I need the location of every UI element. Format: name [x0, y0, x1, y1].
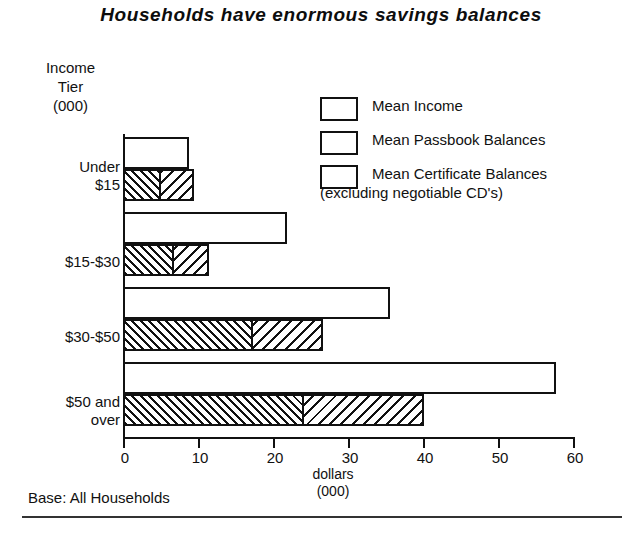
bar-stack-balances-30-50 [123, 319, 323, 351]
legend-item-mean-passbook-balances: Mean Passbook Balances [320, 130, 547, 156]
x-tick-mark [123, 439, 125, 448]
bar-segment-certificate-under-15 [159, 169, 194, 201]
category-label-15-30: $15-$30 [8, 253, 120, 271]
x-tick-mark [198, 439, 200, 448]
bar-mean-income-15-30 [123, 212, 287, 244]
backward-hatch-swatch-icon [320, 165, 358, 189]
legend-item-mean-certificate-balances: Mean Certificate Balances (excluding neg… [320, 164, 547, 202]
x-tick-mark [348, 439, 350, 448]
bar-segment-passbook-30-50 [123, 319, 253, 351]
bar-stack-balances-under-15 [123, 169, 194, 201]
base-note: Base: All Households [28, 489, 170, 506]
bar-stack-balances-50-and-over [123, 394, 424, 426]
x-tick-mark [273, 439, 275, 448]
forward-hatch-swatch-icon [320, 131, 358, 155]
category-label-under-15: Under $15 [8, 158, 120, 194]
x-axis-title: dollars (000) [253, 466, 413, 500]
x-tick-label: 0 [105, 449, 145, 466]
legend-label: Mean Passbook Balances [372, 131, 545, 148]
footer-divider [22, 516, 622, 518]
x-tick-mark [573, 439, 575, 448]
x-tick-label: 10 [180, 449, 220, 466]
bar-mean-income-30-50 [123, 287, 390, 319]
category-label-50-and-over: $50 and over [8, 393, 120, 429]
bar-segment-certificate-30-50 [251, 319, 323, 351]
bar-segment-passbook-15-30 [123, 244, 174, 276]
bar-stack-balances-15-30 [123, 244, 209, 276]
x-tick-mark [423, 439, 425, 448]
x-tick-label: 50 [480, 449, 520, 466]
bar-mean-income-50-and-over [123, 362, 556, 394]
empty-box-swatch-icon [320, 97, 358, 121]
x-tick-mark [498, 439, 500, 448]
x-tick-label: 30 [330, 449, 370, 466]
bar-mean-income-under-15 [123, 137, 189, 169]
bar-segment-passbook-under-15 [123, 169, 161, 201]
chart-legend: Mean Income Mean Passbook Balances Mean … [320, 96, 547, 210]
chart-plot-area: Income Tier (000) 0 10 20 30 40 50 60 do… [0, 0, 642, 544]
bar-segment-passbook-50-and-over [123, 394, 304, 426]
legend-label: Mean Income [372, 97, 463, 114]
x-tick-label: 20 [255, 449, 295, 466]
x-tick-label: 60 [555, 449, 595, 466]
category-label-30-50: $30-$50 [8, 328, 120, 346]
bar-segment-certificate-50-and-over [302, 394, 424, 426]
y-axis-header: Income Tier (000) [18, 58, 123, 115]
legend-item-mean-income: Mean Income [320, 96, 547, 122]
bar-segment-certificate-15-30 [172, 244, 209, 276]
x-tick-label: 40 [405, 449, 445, 466]
